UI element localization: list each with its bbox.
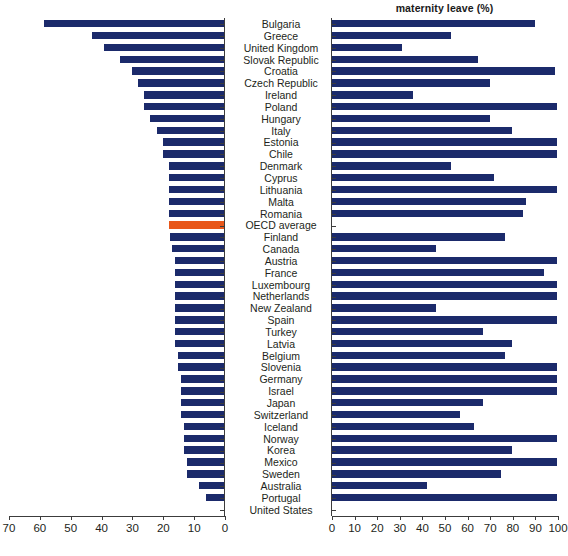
bar-left[interactable]	[175, 304, 224, 311]
bar-right[interactable]	[332, 56, 478, 63]
left-bar-track	[9, 385, 224, 397]
bar-right[interactable]	[332, 399, 483, 406]
bar-left[interactable]	[175, 292, 224, 299]
axis-tick-label: 60	[461, 522, 474, 534]
bar-right[interactable]	[332, 446, 512, 453]
bar-right[interactable]	[332, 20, 535, 27]
bar-right[interactable]	[332, 269, 544, 276]
bar-left[interactable]	[144, 103, 224, 110]
chart-row: United States	[0, 504, 565, 516]
bar-right[interactable]	[332, 233, 505, 240]
bar-right[interactable]	[332, 482, 427, 489]
bar-right[interactable]	[332, 375, 557, 382]
bar-right[interactable]	[332, 316, 557, 323]
bar-right[interactable]	[332, 103, 557, 110]
bar-left[interactable]	[181, 411, 224, 418]
bar-left[interactable]	[132, 67, 224, 74]
right-bar-track	[332, 267, 557, 279]
bar-right[interactable]	[332, 138, 557, 145]
bar-right[interactable]	[332, 91, 413, 98]
bar-left[interactable]	[150, 115, 224, 122]
bar-right[interactable]	[332, 292, 557, 299]
bar-left[interactable]	[187, 458, 224, 465]
left-panel-axis-spine	[224, 18, 225, 516]
axis-tick	[332, 24, 336, 25]
left-bar-track	[9, 433, 224, 445]
bar-left[interactable]	[181, 399, 224, 406]
bar-left[interactable]	[157, 127, 224, 134]
bar-right[interactable]	[332, 162, 451, 169]
bar-left[interactable]	[175, 269, 224, 276]
bar-right[interactable]	[332, 423, 474, 430]
bar-right[interactable]	[332, 44, 402, 51]
bar-right[interactable]	[332, 245, 436, 252]
bar-left[interactable]	[120, 56, 224, 63]
bar-right[interactable]	[332, 150, 557, 157]
right-bar-track	[332, 338, 557, 350]
bar-right[interactable]	[332, 198, 526, 205]
axis-tick-label: 70	[3, 522, 16, 534]
bar-left[interactable]	[170, 233, 224, 240]
bar-left[interactable]	[172, 245, 224, 252]
bar-left[interactable]	[187, 470, 224, 477]
bar-left[interactable]	[178, 363, 224, 370]
bar-right[interactable]	[332, 127, 512, 134]
axis-tick	[332, 36, 336, 37]
axis-tick	[332, 48, 336, 49]
bar-right[interactable]	[332, 387, 557, 394]
bar-right[interactable]	[332, 67, 555, 74]
bar-right[interactable]	[332, 115, 490, 122]
bar-right[interactable]	[332, 411, 460, 418]
bar-right[interactable]	[332, 328, 483, 335]
bar-left[interactable]	[175, 340, 224, 347]
axis-tick	[220, 403, 224, 404]
bar-left[interactable]	[175, 316, 224, 323]
bar-left[interactable]	[163, 150, 224, 157]
bar-right[interactable]	[332, 281, 557, 288]
axis-tick	[400, 516, 401, 520]
bar-left[interactable]	[92, 32, 224, 39]
right-panel-x-axis: 0102030405060708090100	[300, 516, 565, 550]
bar-left[interactable]	[169, 186, 224, 193]
left-bar-track	[9, 30, 224, 42]
axis-tick	[220, 297, 224, 298]
bar-left[interactable]	[169, 210, 224, 217]
bar-right[interactable]	[332, 186, 557, 193]
bar-left[interactable]	[181, 387, 224, 394]
bar-right[interactable]	[332, 435, 557, 442]
bar-left[interactable]	[175, 281, 224, 288]
bar-right[interactable]	[332, 352, 505, 359]
bar-left[interactable]	[184, 446, 224, 453]
bar-left[interactable]	[169, 198, 224, 205]
axis-tick	[332, 344, 336, 345]
bar-left[interactable]	[138, 79, 224, 86]
left-bar-track	[9, 492, 224, 504]
bar-right[interactable]	[332, 210, 523, 217]
bar-right[interactable]	[332, 79, 490, 86]
bar-right[interactable]	[332, 257, 557, 264]
bar-left[interactable]	[178, 352, 224, 359]
bar-right[interactable]	[332, 32, 451, 39]
bar-left[interactable]	[144, 91, 224, 98]
bar-right[interactable]	[332, 174, 494, 181]
bar-left[interactable]	[169, 221, 224, 228]
right-bar-track	[332, 101, 557, 113]
axis-tick	[220, 143, 224, 144]
bar-left[interactable]	[104, 44, 224, 51]
bar-right[interactable]	[332, 363, 557, 370]
bar-left[interactable]	[175, 328, 224, 335]
bar-right[interactable]	[332, 340, 512, 347]
bar-left[interactable]	[169, 162, 224, 169]
bar-left[interactable]	[169, 174, 224, 181]
bar-right[interactable]	[332, 494, 557, 501]
bar-left[interactable]	[163, 138, 224, 145]
bar-left[interactable]	[181, 375, 224, 382]
bar-left[interactable]	[184, 423, 224, 430]
bar-left[interactable]	[184, 435, 224, 442]
bar-right[interactable]	[332, 470, 501, 477]
bar-left[interactable]	[44, 20, 224, 27]
bar-right[interactable]	[332, 304, 436, 311]
bar-left[interactable]	[175, 257, 224, 264]
bar-right[interactable]	[332, 458, 557, 465]
